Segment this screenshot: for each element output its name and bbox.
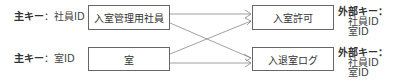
foreign-key-item: 室ID [338, 68, 388, 78]
foreign-key-item: 室ID [338, 27, 388, 37]
foreign-keys-permission: 外部キー： 社員ID 室ID [338, 7, 388, 37]
foreign-keys-log: 外部キー： 社員ID 室ID [338, 48, 388, 78]
